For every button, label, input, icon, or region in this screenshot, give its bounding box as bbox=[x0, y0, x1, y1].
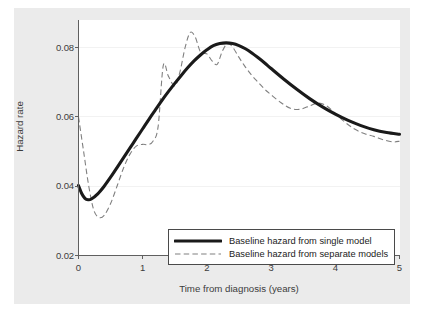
y-tick-label-0: 0.02 bbox=[0, 250, 82, 261]
series-line-1 bbox=[79, 32, 400, 218]
legend-item-separate-models: Baseline hazard from separate models bbox=[174, 247, 388, 260]
y-tick-label-1: 0.04 bbox=[0, 180, 82, 191]
legend-sample-dashed-line bbox=[174, 248, 222, 260]
x-tick-label-0: 0 bbox=[64, 262, 94, 273]
legend-item-single-model: Baseline hazard from single model bbox=[174, 234, 388, 247]
y-tick-label-2: 0.06 bbox=[0, 111, 82, 122]
legend-label-separate-models: Baseline hazard from separate models bbox=[229, 248, 388, 260]
y-axis-title: Hazard rate bbox=[14, 77, 25, 177]
x-axis-title: Time from diagnosis (years) bbox=[78, 283, 400, 294]
series-line-0 bbox=[79, 43, 400, 200]
plot-svg bbox=[78, 20, 400, 256]
x-tick-label-1: 1 bbox=[128, 262, 158, 273]
chart-legend: Baseline hazard from single model Baseli… bbox=[168, 229, 395, 265]
legend-sample-solid-line bbox=[174, 235, 222, 247]
y-tick-label-3: 0.08 bbox=[0, 42, 82, 53]
legend-label-single-model: Baseline hazard from single model bbox=[229, 235, 372, 247]
plot-panel bbox=[78, 20, 400, 256]
hazard-rate-chart-figure: 0.020.040.060.08 012345 Hazard rate Time… bbox=[0, 0, 424, 318]
